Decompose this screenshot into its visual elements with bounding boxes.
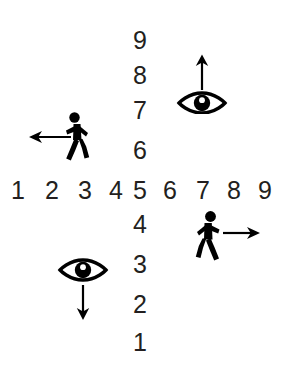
horizontal-label-2: 2 xyxy=(41,178,63,203)
horizontal-label-6: 6 xyxy=(159,178,181,203)
horizontal-label-8: 8 xyxy=(223,178,245,203)
icon-group-eye-down xyxy=(55,256,111,322)
horizontal-label-5: 5 xyxy=(129,178,151,203)
vertical-label-2: 2 xyxy=(129,292,151,317)
walking-person-icon-right xyxy=(196,211,220,260)
eye-icon-up xyxy=(179,93,225,113)
vertical-label-8: 8 xyxy=(129,63,151,88)
eye-up-svg xyxy=(175,52,229,114)
arrow-left-icon xyxy=(29,131,71,143)
vertical-label-4: 4 xyxy=(129,212,151,237)
walk-left-svg xyxy=(26,110,100,166)
icon-group-walk-left xyxy=(26,110,100,166)
vertical-label-7: 7 xyxy=(129,98,151,123)
horizontal-label-1: 1 xyxy=(7,178,29,203)
horizontal-label-3: 3 xyxy=(74,178,96,203)
diagram-canvas: 9 8 7 6 4 3 2 1 1 2 3 4 5 6 7 8 9 xyxy=(0,0,283,371)
arrow-down-icon xyxy=(77,285,89,320)
vertical-label-1: 1 xyxy=(129,330,151,355)
walk-right-svg xyxy=(183,208,261,266)
vertical-label-9: 9 xyxy=(129,28,151,53)
horizontal-label-7: 7 xyxy=(192,178,214,203)
horizontal-label-4: 4 xyxy=(105,178,127,203)
icon-group-walk-right xyxy=(183,208,261,266)
horizontal-label-9: 9 xyxy=(254,178,276,203)
arrow-right-icon xyxy=(223,227,260,239)
vertical-label-3: 3 xyxy=(129,252,151,277)
eye-icon-down xyxy=(60,260,106,280)
icon-group-eye-up xyxy=(175,52,229,114)
vertical-label-6: 6 xyxy=(129,138,151,163)
arrow-up-icon xyxy=(196,55,208,91)
eye-down-svg xyxy=(55,256,111,322)
